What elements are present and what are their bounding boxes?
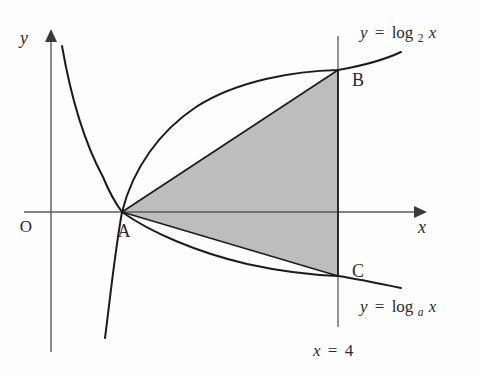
eq-x4-equals: = [328,341,338,360]
eq-log2-base: 2 [418,32,424,44]
point-label-c: C [352,261,364,281]
eq-log2-arg: x [428,23,437,42]
equation-label-x-equals-4: x = 4 [312,341,354,360]
equation-label-loga: y = log a x [358,297,437,320]
point-label-a: A [118,221,131,241]
eq-loga-base: a [418,306,424,318]
log-functions-diagram: y x O A B C y = log 2 x y = log a x x = … [0,0,479,377]
x-axis-label: x [417,217,426,237]
eq-log2-fn: log [392,23,414,42]
origin-label: O [20,217,32,236]
eq-x4-rhs: 4 [345,341,354,360]
eq-loga-lhs: y [358,297,368,316]
figure-container: y x O A B C y = log 2 x y = log a x x = … [0,0,479,377]
eq-loga-fn: log [392,297,414,316]
eq-x4-lhs: x [312,341,321,360]
point-label-b: B [352,70,364,90]
eq-loga-arg: x [428,297,437,316]
shaded-triangle-abc [122,70,338,276]
equation-label-log2: y = log 2 x [358,23,437,46]
eq-log2-equals: = [375,23,385,42]
eq-log2-lhs: y [358,23,368,42]
y-axis-arrow-icon [45,29,57,42]
y-axis-label: y [18,28,28,48]
eq-loga-equals: = [375,297,385,316]
